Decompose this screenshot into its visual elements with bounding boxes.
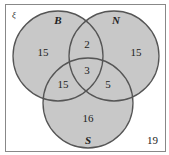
- region-outside: 19: [147, 134, 159, 146]
- set-s-label: S: [85, 134, 91, 146]
- region-n-s: 5: [105, 78, 111, 90]
- set-n-label: N: [111, 14, 121, 26]
- set-b-label: B: [53, 14, 61, 26]
- region-b-n: 2: [84, 38, 90, 50]
- region-n-only: 15: [131, 46, 143, 58]
- region-s-only: 16: [83, 112, 95, 124]
- region-b-s: 15: [58, 78, 70, 90]
- universal-label: ξ: [12, 10, 16, 20]
- region-b-only: 15: [38, 46, 50, 58]
- venn-diagram: ξ B N S 15 15 16 2 15 5 3 19: [0, 0, 169, 155]
- region-b-n-s: 3: [84, 64, 90, 76]
